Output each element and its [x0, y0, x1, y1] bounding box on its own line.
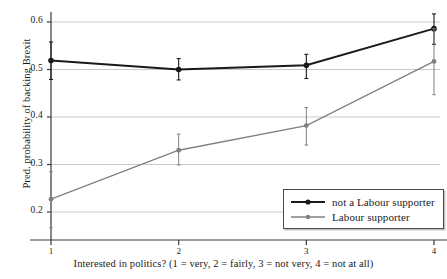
data-point [176, 148, 181, 153]
legend-swatch-line-black [290, 196, 326, 208]
data-point [49, 197, 54, 202]
data-point [48, 58, 54, 64]
data-point [432, 59, 437, 64]
x-tick-label: 4 [422, 246, 446, 256]
chart-legend: not a Labour supporter Labour supporter [283, 189, 444, 229]
x-tick-label: 3 [294, 246, 318, 256]
legend-swatch-line-gray [290, 211, 326, 223]
series-line [51, 61, 434, 199]
y-tick-label: 0.6 [3, 15, 43, 25]
series-line [51, 29, 434, 70]
legend-label-0: not a Labour supporter [332, 196, 435, 208]
data-point [304, 123, 309, 128]
y-tick-label: 0.3 [3, 158, 43, 168]
legend-item-0: not a Labour supporter [290, 194, 435, 209]
y-tick-label: 0.4 [3, 110, 43, 120]
x-tick-label: 2 [167, 246, 191, 256]
data-point [176, 67, 182, 73]
x-axis-title: Interested in politics? (1 = very, 2 = f… [0, 258, 447, 269]
y-tick-label: 0.5 [3, 63, 43, 73]
y-tick-label: 0.2 [3, 205, 43, 215]
plot-area [0, 0, 447, 279]
x-tick-label: 1 [39, 246, 63, 256]
legend-item-1: Labour supporter [290, 209, 435, 224]
data-point [304, 62, 310, 68]
legend-label-1: Labour supporter [332, 211, 410, 223]
chart-figure: Pred. probability of backing Brexit Inte… [0, 0, 447, 279]
